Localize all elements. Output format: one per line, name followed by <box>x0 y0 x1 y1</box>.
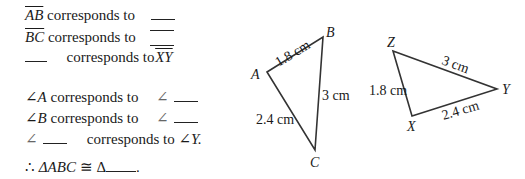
vertex-y-label: Y <box>502 82 512 97</box>
vertex-x-label: X <box>406 119 416 134</box>
side-zy-length: 3 cm <box>440 53 471 77</box>
triangles-figure: A B C 1.8 cm 3 cm 2.4 cm Z Y X 3 cm 1.8 … <box>0 0 525 179</box>
vertex-b-label: B <box>326 25 335 40</box>
side-ac-length: 2.4 cm <box>256 112 294 127</box>
vertex-a-label: A <box>250 67 260 82</box>
side-zx-length: 1.8 cm <box>369 83 407 98</box>
side-ab-length: 1.8 cm <box>272 37 312 70</box>
side-bc-length: 3 cm <box>322 88 350 103</box>
vertex-c-label: C <box>310 155 320 170</box>
vertex-z-label: Z <box>387 35 395 50</box>
